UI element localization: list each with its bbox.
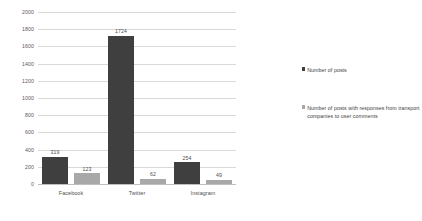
legend-label: Number of posts bbox=[307, 66, 347, 74]
bar-value-label: 319 bbox=[42, 149, 68, 155]
bars-layer: 31912317246225449 bbox=[38, 12, 236, 184]
bar[interactable] bbox=[42, 157, 68, 184]
y-tick-label: 1200 bbox=[0, 78, 34, 84]
bar[interactable] bbox=[108, 36, 134, 184]
y-axis: 2000180016001400120010008006004002000 bbox=[0, 12, 34, 184]
bar[interactable] bbox=[174, 162, 200, 184]
bar-value-label: 1724 bbox=[108, 28, 134, 34]
legend-label: Number of posts with responses from tran… bbox=[307, 104, 420, 120]
bar-group: 319123 bbox=[42, 12, 100, 184]
x-axis: FacebookTwitterInstagram bbox=[38, 190, 236, 204]
y-tick-label: 1800 bbox=[0, 26, 34, 32]
x-tick-label-twitter: Twitter bbox=[104, 190, 170, 196]
gridline-0 bbox=[38, 184, 236, 185]
legend-entry[interactable]: Number of posts bbox=[302, 66, 347, 74]
bar-chart: 2000180016001400120010008006004002000 31… bbox=[0, 0, 422, 221]
y-tick-label: 1000 bbox=[0, 95, 34, 101]
bar[interactable] bbox=[74, 173, 100, 184]
x-tick-label-facebook: Facebook bbox=[38, 190, 104, 196]
y-tick-label: 0 bbox=[0, 181, 34, 187]
bar[interactable] bbox=[140, 179, 166, 184]
x-tick-label-instagram: Instagram bbox=[170, 190, 236, 196]
bar-value-label: 123 bbox=[74, 166, 100, 172]
bar-value-label: 62 bbox=[140, 171, 166, 177]
y-tick-label: 1400 bbox=[0, 61, 34, 67]
y-tick-label: 2000 bbox=[0, 9, 34, 15]
y-tick-label: 800 bbox=[0, 112, 34, 118]
y-tick-label: 400 bbox=[0, 147, 34, 153]
bar[interactable] bbox=[206, 180, 232, 184]
y-tick-label: 1600 bbox=[0, 43, 34, 49]
legend-swatch-icon bbox=[302, 67, 305, 70]
bar-value-label: 49 bbox=[206, 172, 232, 178]
bar-group: 25449 bbox=[174, 12, 232, 184]
bar-value-label: 254 bbox=[174, 155, 200, 161]
legend-entry[interactable]: Number of posts with responses from tran… bbox=[302, 104, 420, 120]
y-tick-label: 600 bbox=[0, 129, 34, 135]
y-tick-label: 200 bbox=[0, 164, 34, 170]
legend-swatch-icon bbox=[302, 105, 305, 108]
bar-group: 172462 bbox=[108, 12, 166, 184]
